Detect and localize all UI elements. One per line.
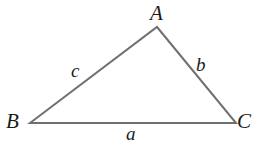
triangle-outline: [30, 27, 236, 123]
vertex-label-a: A: [150, 3, 163, 24]
vertex-label-b: B: [6, 111, 19, 132]
side-label-a: a: [126, 124, 136, 143]
side-label-c: c: [71, 61, 79, 80]
vertex-label-c: C: [237, 111, 251, 132]
triangle-diagram: A B C a b c: [0, 0, 270, 145]
side-label-b: b: [196, 55, 206, 74]
